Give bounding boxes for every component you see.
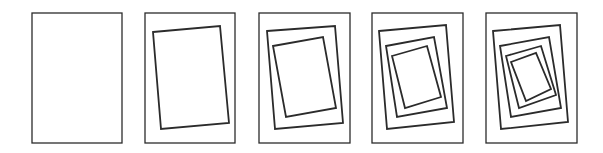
nested-rectangles-diagram xyxy=(0,0,603,153)
nested-rectangle-1 xyxy=(153,26,229,129)
nested-rectangle-2 xyxy=(273,37,336,117)
panel-2 xyxy=(145,13,235,143)
panel-1 xyxy=(32,13,122,143)
nested-rectangle-3 xyxy=(392,46,441,108)
panel-3 xyxy=(259,13,350,143)
panel-5 xyxy=(486,13,577,143)
diagram-canvas xyxy=(0,0,603,153)
panel-4 xyxy=(372,13,463,143)
outer-frame xyxy=(32,13,122,143)
